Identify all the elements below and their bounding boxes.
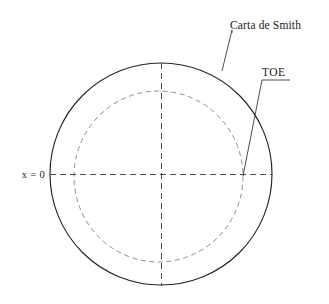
carta-de-smith-leader-line xyxy=(222,30,232,71)
inner-toe-circle xyxy=(74,91,243,262)
carta-de-smith-label: Carta de Smith xyxy=(230,19,301,31)
smith-chart-canvas: Carta de Smith TOE x = 0 xyxy=(0,0,329,304)
toe-label: TOE xyxy=(262,66,285,78)
toe-leader-line xyxy=(243,80,290,176)
smith-chart-figure: Carta de Smith TOE x = 0 xyxy=(0,0,329,304)
x-equals-zero-label: x = 0 xyxy=(22,169,45,180)
